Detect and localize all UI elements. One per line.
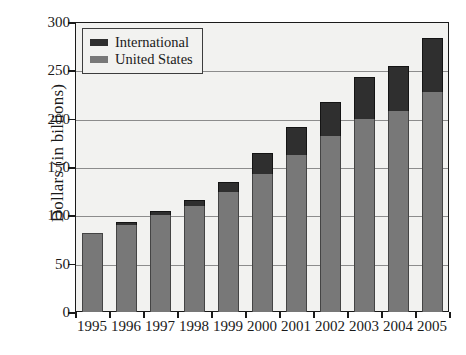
y-tick-label: 150 bbox=[30, 159, 70, 176]
y-tick-mark bbox=[68, 70, 75, 72]
bar-segment-united-states[interactable] bbox=[252, 174, 273, 312]
bar-segment-international[interactable] bbox=[252, 153, 273, 173]
bar-group[interactable] bbox=[354, 77, 375, 312]
y-tick-mark bbox=[68, 167, 75, 169]
bar-segment-united-states[interactable] bbox=[320, 136, 341, 312]
x-tick-mark bbox=[279, 312, 281, 318]
bar-group[interactable] bbox=[218, 182, 239, 312]
x-tick-label: 2005 bbox=[402, 318, 462, 335]
bar-segment-united-states[interactable] bbox=[184, 206, 205, 312]
x-tick-mark bbox=[347, 312, 349, 318]
bar-group[interactable] bbox=[422, 38, 443, 312]
bar-group[interactable] bbox=[116, 222, 137, 312]
bar-group[interactable] bbox=[388, 66, 409, 312]
bar-segment-international[interactable] bbox=[422, 38, 443, 91]
y-tick-label: 200 bbox=[30, 110, 70, 127]
bar-segment-united-states[interactable] bbox=[422, 92, 443, 312]
bar-segment-united-states[interactable] bbox=[354, 119, 375, 312]
bar-segment-united-states[interactable] bbox=[116, 225, 137, 312]
x-tick-mark bbox=[245, 312, 247, 318]
bar-segment-international[interactable] bbox=[354, 77, 375, 119]
y-tick-mark bbox=[68, 264, 75, 266]
y-tick-label: 300 bbox=[30, 14, 70, 31]
y-tick-mark bbox=[68, 22, 75, 24]
bar-segment-united-states[interactable] bbox=[218, 192, 239, 312]
y-tick-mark bbox=[68, 119, 75, 121]
x-tick-mark bbox=[143, 312, 145, 318]
legend-swatch-icon bbox=[90, 56, 108, 63]
bar-segment-international[interactable] bbox=[388, 66, 409, 111]
legend-item[interactable]: United States bbox=[90, 51, 193, 68]
x-tick-mark bbox=[75, 312, 77, 318]
legend-item-label: United States bbox=[115, 51, 193, 68]
stacked-bar-chart: Dollars (in billions) 050100150200250300… bbox=[0, 0, 466, 355]
bar-segment-united-states[interactable] bbox=[388, 111, 409, 312]
y-tick-mark bbox=[68, 312, 75, 314]
legend-item-label: International bbox=[115, 34, 189, 51]
y-tick-label: 100 bbox=[30, 207, 70, 224]
x-tick-mark bbox=[211, 312, 213, 318]
x-tick-mark bbox=[177, 312, 179, 318]
bar-group[interactable] bbox=[82, 233, 103, 312]
y-tick-label: 250 bbox=[30, 62, 70, 79]
bar-group[interactable] bbox=[320, 102, 341, 312]
x-tick-mark bbox=[381, 312, 383, 318]
bar-segment-united-states[interactable] bbox=[150, 215, 171, 312]
bar-group[interactable] bbox=[184, 200, 205, 312]
x-tick-mark bbox=[415, 312, 417, 318]
y-tick-label: 50 bbox=[30, 255, 70, 272]
y-tick-mark bbox=[68, 215, 75, 217]
bar-group[interactable] bbox=[252, 153, 273, 312]
bar-segment-international[interactable] bbox=[218, 182, 239, 193]
bar-segment-united-states[interactable] bbox=[82, 233, 103, 312]
bar-segment-united-states[interactable] bbox=[286, 155, 307, 312]
chart-legend: InternationalUnited States bbox=[82, 28, 203, 74]
x-tick-mark bbox=[109, 312, 111, 318]
legend-item[interactable]: International bbox=[90, 34, 193, 51]
x-tick-mark bbox=[313, 312, 315, 318]
legend-swatch-icon bbox=[90, 39, 108, 46]
bar-group[interactable] bbox=[286, 127, 307, 312]
bar-group[interactable] bbox=[150, 211, 171, 312]
bar-segment-international[interactable] bbox=[286, 127, 307, 155]
x-tick-mark bbox=[449, 312, 451, 318]
bar-segment-international[interactable] bbox=[320, 102, 341, 136]
